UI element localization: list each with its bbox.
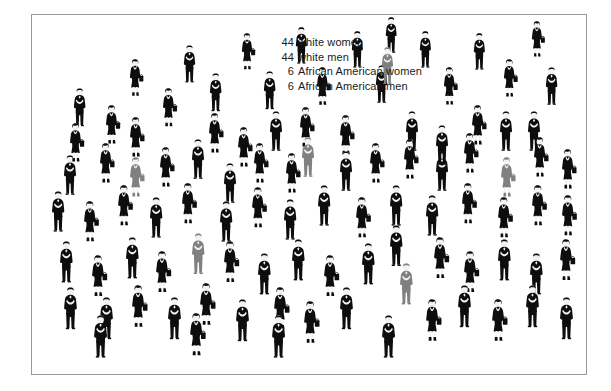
legend-label: African American men <box>298 80 408 92</box>
person-icon-white-man <box>424 195 440 236</box>
person-icon-african-american-woman <box>499 157 516 197</box>
person-icon-white-woman <box>130 285 148 327</box>
person-icon-white-woman <box>560 195 577 236</box>
person-icon-white-woman <box>558 239 576 281</box>
person-icon-white-man <box>498 111 514 151</box>
person-icon-white-man <box>496 239 513 281</box>
figure-frame: 44white women44white men6African America… <box>31 14 587 375</box>
person-icon-white-man <box>62 287 79 329</box>
legend-count: 6 <box>278 64 294 79</box>
person-icon-white-woman <box>236 127 253 167</box>
person-icon-african-american-man <box>398 263 415 305</box>
legend-count: 44 <box>278 50 294 65</box>
person-icon-white-woman <box>496 197 513 238</box>
person-icon-white-woman <box>250 187 267 228</box>
person-icon-white-man <box>270 315 287 358</box>
person-icon-white-woman <box>116 185 133 226</box>
legend-item: 44white men <box>278 50 538 65</box>
person-icon-white-woman <box>68 123 85 162</box>
person-icon-white-woman <box>188 313 206 356</box>
legend-label: white women <box>298 36 363 48</box>
person-icon-white-man <box>524 285 541 327</box>
person-icon-white-man <box>338 287 355 329</box>
legend-item: 44white women <box>278 35 538 50</box>
person-icon-white-woman <box>532 137 549 177</box>
person-icon-white-man <box>338 151 354 191</box>
legend-count: 44 <box>278 35 294 50</box>
person-icon-white-woman <box>128 59 144 96</box>
person-icon-white-woman <box>460 183 477 224</box>
person-icon-white-man <box>558 297 575 339</box>
person-icon-white-woman <box>252 143 269 183</box>
person-icon-white-man <box>208 73 223 111</box>
person-icon-white-man <box>190 139 206 179</box>
person-icon-white-woman <box>530 185 547 226</box>
person-icon-white-man <box>182 45 197 83</box>
person-icon-white-woman <box>104 105 121 144</box>
person-icon-white-man <box>234 299 251 341</box>
person-icon-white-man <box>290 239 307 281</box>
person-icon-white-woman <box>207 113 224 153</box>
person-icon-white-man <box>380 315 397 358</box>
person-icon-white-woman <box>82 201 99 242</box>
legend-item: 6African American men <box>278 79 538 94</box>
person-icon-white-woman <box>180 183 197 224</box>
person-icon-white-woman <box>98 143 115 183</box>
person-icon-white-woman <box>90 255 108 297</box>
person-icon-white-man <box>388 225 404 266</box>
person-icon-white-woman <box>161 88 177 127</box>
person-icon-white-woman <box>284 153 301 193</box>
person-icon-white-woman <box>128 117 145 157</box>
person-icon-white-woman <box>154 251 172 293</box>
person-icon-white-woman <box>222 241 240 283</box>
person-icon-white-woman <box>302 301 320 343</box>
person-icon-white-man <box>148 197 164 238</box>
person-icon-white-woman <box>240 33 256 70</box>
person-icon-white-man <box>166 297 183 339</box>
legend-count: 6 <box>278 79 294 94</box>
person-icon-white-man <box>92 315 109 358</box>
person-icon-african-american-man <box>300 137 316 177</box>
legend: 44white women44white men6African America… <box>278 35 538 93</box>
person-icon-african-american-man <box>190 233 206 274</box>
person-icon-white-man <box>434 125 450 165</box>
person-icon-white-woman <box>432 237 450 279</box>
person-icon-white-man <box>58 241 75 283</box>
person-icon-white-man <box>456 285 473 327</box>
person-icon-white-woman <box>402 139 419 179</box>
person-icon-white-man <box>72 88 87 126</box>
person-icon-white-woman <box>368 143 385 183</box>
person-icon-white-man <box>124 237 141 279</box>
person-icon-white-woman <box>158 147 175 187</box>
person-icon-white-man <box>268 111 284 151</box>
person-icon-white-man <box>388 185 404 226</box>
person-icon-white-woman <box>424 299 442 341</box>
person-icon-white-man <box>360 243 377 285</box>
person-icon-white-man <box>50 191 66 232</box>
person-icon-white-man <box>256 253 273 295</box>
person-icon-white-man <box>316 185 332 226</box>
person-icon-white-woman <box>462 133 479 173</box>
person-icon-white-man <box>544 67 559 105</box>
person-icon-white-man <box>218 201 234 242</box>
person-icon-white-man <box>262 71 277 109</box>
legend-label: white men <box>298 51 349 63</box>
legend-label: African American women <box>298 65 422 77</box>
pictogram-page: 44white women44white men6African America… <box>0 0 611 391</box>
person-icon-white-woman <box>354 197 371 238</box>
person-icon-white-woman <box>490 299 508 341</box>
person-icon-white-woman <box>338 115 355 155</box>
person-icon-white-man <box>282 199 298 240</box>
person-icon-white-man <box>222 163 238 203</box>
legend-item: 6African American women <box>278 64 538 79</box>
person-icon-white-woman <box>560 149 577 189</box>
